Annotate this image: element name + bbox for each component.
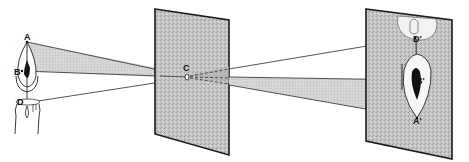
- label-image-a: A': [413, 116, 422, 126]
- label-source-a: A: [24, 32, 31, 42]
- wax-drip: [26, 106, 29, 118]
- pinhole: [185, 74, 189, 80]
- label-source-b: B: [14, 67, 21, 77]
- label-pinhole-c: C: [183, 63, 190, 73]
- label-image-d: D': [413, 34, 422, 44]
- label-source-d: D: [17, 97, 24, 107]
- pinhole-diagram: A B D C D' B' A': [0, 0, 469, 162]
- image-screen: [366, 9, 452, 159]
- label-image-b: B': [416, 76, 425, 86]
- pinhole-screen: [155, 9, 229, 155]
